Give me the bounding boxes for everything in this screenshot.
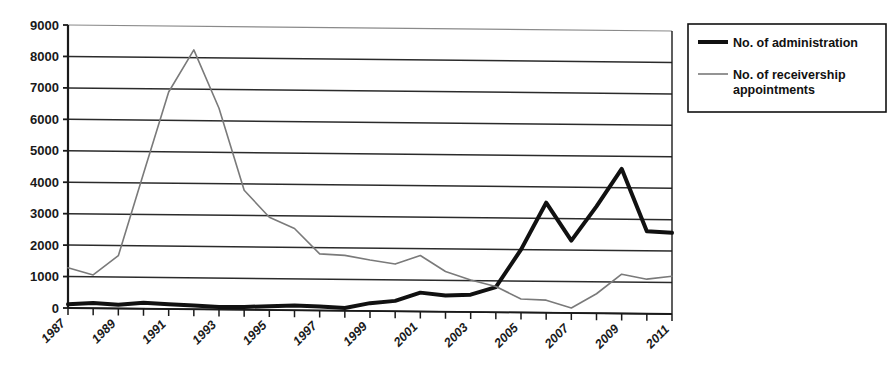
x-axis-tick-label: 1989	[89, 317, 119, 347]
y-axis-tick-label: 0	[52, 301, 59, 316]
legend-label-administration: No. of administration	[733, 36, 858, 50]
legend-label-receivership: appointments	[733, 83, 815, 97]
y-axis-tick-label: 1000	[30, 269, 59, 284]
grid-line	[68, 182, 672, 188]
x-axis-tick-label: 1999	[341, 319, 371, 349]
grid-line	[68, 25, 672, 31]
y-axis-tick-label: 2000	[30, 238, 59, 253]
x-axis-tick-label: 2001	[390, 320, 420, 350]
x-axis-tick-labels: 1987198919911993199519971999200120032005…	[39, 315, 673, 352]
line-chart: 0100020003000400050006000700080009000 19…	[0, 0, 894, 372]
grid-line	[68, 245, 672, 251]
y-axis-tick-label: 8000	[30, 49, 59, 64]
x-axis-tick-label: 2005	[491, 320, 522, 351]
grid-lines	[68, 25, 672, 314]
legend-label-receivership: No. of receivership	[733, 68, 846, 82]
x-axis-tick-label: 1995	[240, 317, 270, 347]
x-axis-tick-label: 2007	[541, 320, 572, 351]
x-axis-tick-label: 1991	[139, 317, 169, 347]
grid-line	[68, 88, 672, 94]
legend: No. of administrationNo. of receivership…	[688, 24, 886, 112]
x-axis-tick-label: 1993	[190, 318, 220, 348]
grid-line	[68, 214, 672, 220]
y-axis-tick-labels: 0100020003000400050006000700080009000	[30, 18, 59, 316]
x-axis-tick-label: 2011	[643, 322, 673, 352]
x-axis-tick-label: 2009	[592, 322, 622, 352]
x-axis-tick-label: 1997	[290, 318, 320, 348]
y-axis-tick-label: 6000	[30, 112, 59, 127]
y-axis-tick-label: 9000	[30, 18, 59, 33]
y-axis-tick-label: 4000	[30, 175, 59, 190]
grid-line	[68, 277, 672, 283]
series-line-administration	[68, 169, 672, 308]
y-axis-tick-label: 5000	[30, 143, 59, 158]
x-axis-tick-label: 2003	[441, 320, 471, 350]
grid-line	[68, 56, 672, 62]
grid-line	[68, 151, 672, 157]
chart-canvas: 0100020003000400050006000700080009000 19…	[0, 0, 894, 372]
x-axis-tick-label: 1987	[39, 315, 69, 345]
plot-area-frame	[68, 25, 672, 314]
y-axis-tick-label: 7000	[30, 80, 59, 95]
y-axis-tick-label: 3000	[30, 206, 59, 221]
